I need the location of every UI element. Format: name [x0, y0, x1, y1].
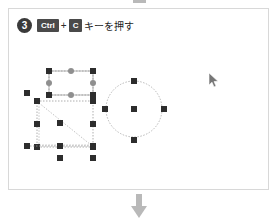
- handle-w[interactable]: [46, 80, 52, 86]
- handle-extra-s[interactable]: [57, 155, 63, 161]
- handle-e[interactable]: [90, 80, 96, 86]
- circle-shape[interactable]: [102, 78, 167, 143]
- handle-extra-nw[interactable]: [24, 90, 30, 96]
- handle-extra-mid[interactable]: [57, 120, 63, 126]
- key-separator: +: [61, 19, 67, 32]
- keycap-c: C: [69, 19, 83, 32]
- handle-nw[interactable]: [34, 98, 40, 104]
- handle-nw[interactable]: [46, 68, 52, 74]
- handle-se[interactable]: [90, 92, 96, 98]
- handle-w[interactable]: [34, 121, 40, 127]
- handle-e[interactable]: [161, 106, 167, 112]
- triangle-shape[interactable]: [34, 98, 96, 150]
- handle-e[interactable]: [90, 121, 96, 127]
- handle-sw[interactable]: [46, 92, 52, 98]
- connector-arrow-bottom: [131, 194, 147, 218]
- step-number-badge: 3: [17, 18, 32, 33]
- rectangle-selection-box: [49, 71, 93, 95]
- handle-start[interactable]: [24, 143, 30, 149]
- shape-layer: [9, 43, 270, 190]
- handle-extra-se[interactable]: [90, 155, 96, 161]
- step-panel: 3 Ctrl + C キーを押す: [8, 8, 269, 190]
- handle-ne[interactable]: [90, 68, 96, 74]
- rectangle-outline: [49, 71, 93, 95]
- keycap-ctrl: Ctrl: [37, 19, 59, 32]
- handle-n[interactable]: [68, 68, 74, 74]
- rectangle-shape[interactable]: [46, 68, 96, 98]
- handle-ne[interactable]: [90, 98, 96, 104]
- handle-n[interactable]: [131, 78, 137, 84]
- mouse-pointer-icon: [208, 73, 220, 89]
- handle-end[interactable]: [90, 143, 96, 149]
- connector-arrow-top: [133, 0, 146, 3]
- handle-center[interactable]: [131, 106, 137, 112]
- triangle-outline: [39, 103, 91, 145]
- handle-w[interactable]: [102, 106, 108, 112]
- drawing-canvas[interactable]: [9, 43, 270, 190]
- handle-mid[interactable]: [57, 143, 63, 149]
- step-header: 3 Ctrl + C キーを押す: [17, 17, 133, 33]
- handle-s[interactable]: [131, 137, 137, 143]
- handle-sw[interactable]: [34, 144, 40, 150]
- handle-s[interactable]: [68, 92, 74, 98]
- step-instruction-text: キーを押す: [84, 18, 133, 33]
